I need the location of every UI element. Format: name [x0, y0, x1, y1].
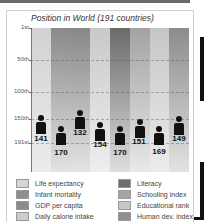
ytick-50th: 50th	[2, 56, 29, 62]
tick-mark	[29, 143, 32, 144]
person-icon	[114, 126, 126, 145]
tick-mark	[29, 119, 32, 120]
side-bar-foot	[194, 217, 204, 220]
person-icon	[94, 122, 106, 141]
legend-item-literacy: Literacy	[118, 178, 193, 189]
person-icon	[134, 119, 146, 138]
column-human-dev-index	[169, 28, 189, 172]
swatch-icon	[118, 201, 131, 210]
value-infant-mortality: 170	[49, 148, 73, 157]
column-life-expectancy	[31, 28, 51, 172]
person-icon	[74, 110, 86, 129]
legend-right: Literacy Schooling index Educational ran…	[118, 178, 193, 222]
value-life-expectancy: 141	[29, 134, 53, 143]
value-gdp-per-capita: 132	[68, 128, 92, 137]
ytick-1st: 1st	[2, 24, 29, 30]
legend-item-human-dev-index: Human dev. index	[118, 211, 193, 222]
side-bar-bottom	[200, 162, 204, 220]
legend-item-life-expectancy: Life expectancy	[16, 178, 94, 189]
ytick-150th: 150th	[2, 115, 29, 121]
person-icon	[173, 116, 185, 135]
legend-item-schooling-index: Schooling index	[118, 189, 193, 200]
gridline-100th	[31, 92, 189, 93]
column-gdp-per-capita	[71, 28, 91, 172]
person-icon	[153, 126, 165, 145]
swatch-icon	[16, 201, 29, 210]
gridline-50th	[31, 60, 189, 61]
value-schooling-index: 151	[127, 137, 151, 146]
tick-mark	[29, 92, 32, 93]
top-divider	[0, 0, 190, 3]
person-icon	[55, 126, 67, 145]
y-axis-line	[31, 28, 32, 172]
side-bar-top	[200, 37, 204, 101]
swatch-icon	[118, 179, 131, 188]
legend-left: Life expectancy Infant mortality GDP per…	[16, 178, 94, 222]
chart-title: Position in World (191 countries)	[31, 13, 154, 23]
tick-mark	[29, 60, 32, 61]
swatch-icon	[118, 212, 131, 221]
legend-item-daily-calorie-intake: Daily calorie intake	[16, 211, 94, 222]
swatch-icon	[16, 190, 29, 199]
gridline-150th	[31, 119, 189, 120]
ytick-100th: 100th	[2, 88, 29, 94]
value-human-dev-index: 149	[167, 134, 191, 143]
ytick-191st: 191st	[2, 139, 29, 145]
swatch-icon	[16, 212, 29, 221]
value-literacy: 170	[108, 148, 132, 157]
swatch-icon	[118, 190, 131, 199]
tick-mark	[29, 28, 32, 29]
plot-area: 141 170 132 154 170 151 169 149	[31, 28, 189, 172]
value-educational-rank: 169	[147, 147, 171, 156]
person-icon	[35, 115, 47, 134]
legend-item-educational-rank: Educational rank	[118, 200, 193, 211]
swatch-icon	[16, 179, 29, 188]
legend-item-gdp-per-capita: GDP per capita	[16, 200, 94, 211]
legend-item-infant-mortality: Infant mortality	[16, 189, 94, 200]
